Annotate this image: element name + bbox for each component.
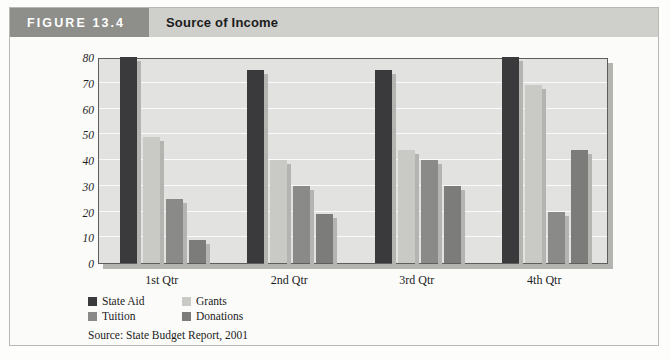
legend-item: Donations: [182, 310, 276, 322]
bar-face: [375, 70, 392, 263]
bar: [189, 240, 206, 263]
legend-swatch-icon: [88, 297, 97, 306]
bar-face: [120, 57, 137, 263]
legend-label: Donations: [196, 310, 243, 322]
bar-shadow: [565, 216, 569, 268]
bar: [247, 70, 264, 263]
legend-item: Tuition: [88, 310, 182, 322]
legend-item: Grants: [182, 295, 276, 307]
x-axis-tick-label: 2nd Qtr: [271, 273, 308, 288]
bar-face: [548, 212, 565, 264]
plot-area: [98, 58, 608, 264]
bar-face: [316, 214, 333, 263]
bar-shadow: [183, 203, 187, 267]
bar: [398, 150, 415, 263]
legend-row: State AidGrants: [88, 295, 348, 307]
bar: [293, 186, 310, 263]
bar-shadow: [160, 141, 164, 267]
bar-shadow: [461, 190, 465, 267]
x-axis: 1st Qtr2nd Qtr3rd Qtr4th Qtr: [98, 273, 608, 291]
bar: [421, 160, 438, 263]
y-axis: 01020304050607080: [56, 58, 94, 264]
legend-swatch-icon: [88, 312, 97, 321]
gridline: [99, 82, 607, 83]
figure-header: FIGURE 13.4 Source of Income: [10, 8, 658, 37]
bar: [502, 57, 519, 263]
bar: [571, 150, 588, 263]
bar-face: [571, 150, 588, 263]
page-title: Source of Income: [149, 8, 658, 37]
plot-shadow-right: [608, 63, 613, 269]
bar-face: [143, 137, 160, 263]
bar-face: [270, 160, 287, 263]
bar: [166, 199, 183, 263]
bar: [375, 70, 392, 263]
bar-shadow: [206, 244, 210, 267]
bar-face: [502, 57, 519, 263]
bar-face: [293, 186, 310, 263]
bar-face: [247, 70, 264, 263]
bar-face: [189, 240, 206, 263]
legend-label: Tuition: [102, 310, 135, 322]
bar-shadow: [137, 61, 141, 267]
figure-number-tag: FIGURE 13.4: [10, 8, 149, 37]
bar: [444, 186, 461, 263]
bar: [270, 160, 287, 263]
legend-swatch-icon: [182, 312, 191, 321]
bar-shadow: [264, 74, 268, 267]
bar-face: [421, 160, 438, 263]
bar-shadow: [392, 74, 396, 267]
bar: [525, 85, 542, 263]
y-axis-tick-label: 50: [60, 129, 94, 141]
bar-shadow: [542, 89, 546, 267]
bar: [316, 214, 333, 263]
figure-container: FIGURE 13.4 Source of Income 01020304050…: [0, 0, 670, 360]
chart-area: 01020304050607080 1st Qtr2nd Qtr3rd Qtr4…: [10, 37, 658, 345]
bar-shadow: [519, 61, 523, 267]
bar-face: [444, 186, 461, 263]
bar: [120, 57, 137, 263]
legend-swatch-icon: [182, 297, 191, 306]
x-axis-tick-label: 4th Qtr: [527, 273, 561, 288]
bar: [143, 137, 160, 263]
y-axis-tick-label: 60: [60, 104, 94, 116]
plot-shadow-bottom: [103, 264, 613, 269]
bar-shadow: [333, 218, 337, 267]
y-axis-tick-label: 80: [60, 52, 94, 64]
legend-label: State Aid: [102, 295, 145, 307]
legend-row: TuitionDonations: [88, 310, 348, 322]
bar-face: [166, 199, 183, 263]
y-axis-tick-label: 0: [60, 258, 94, 270]
y-axis-tick-label: 70: [60, 78, 94, 90]
source-note: Source: State Budget Report, 2001: [88, 329, 248, 341]
bar-face: [525, 85, 542, 263]
bar-shadow: [310, 190, 314, 267]
y-axis-tick-label: 20: [60, 207, 94, 219]
legend-label: Grants: [196, 295, 227, 307]
bar-shadow: [287, 164, 291, 267]
x-axis-tick-label: 3rd Qtr: [399, 273, 434, 288]
y-axis-tick-label: 40: [60, 155, 94, 167]
x-axis-tick-label: 1st Qtr: [145, 273, 178, 288]
bar-shadow: [438, 164, 442, 267]
y-axis-tick-label: 10: [60, 232, 94, 244]
bar-shadow: [415, 154, 419, 267]
chart-legend: State AidGrantsTuitionDonations: [88, 295, 348, 325]
bar-shadow: [588, 154, 592, 267]
bar-face: [398, 150, 415, 263]
legend-item: State Aid: [88, 295, 182, 307]
y-axis-tick-label: 30: [60, 181, 94, 193]
bar: [548, 212, 565, 264]
